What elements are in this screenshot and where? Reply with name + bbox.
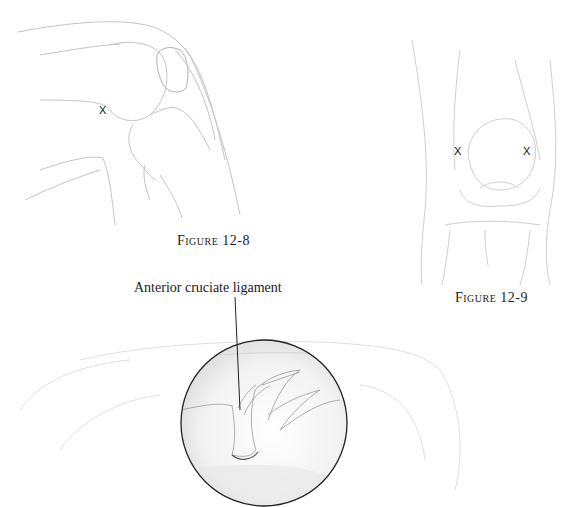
figure-12-9-illustration <box>400 30 565 290</box>
marker-x-12-8: X <box>99 105 106 116</box>
knee-anterior-sketch <box>400 30 565 290</box>
knee-lateral-sketch <box>0 0 300 230</box>
marker-x-12-9-left: X <box>454 146 461 157</box>
figure-caption-12-8: Figure 12-8 <box>177 233 250 249</box>
marker-x-12-9-right: X <box>523 146 530 157</box>
figure-12-8-illustration <box>0 0 300 230</box>
arthroscopic-illustration <box>0 290 565 507</box>
arthroscopic-view-sketch <box>0 290 565 507</box>
